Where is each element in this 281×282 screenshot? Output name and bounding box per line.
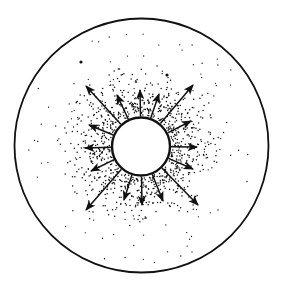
stipple-dot	[102, 127, 104, 129]
stipple-dot	[184, 154, 186, 156]
stipple-dot	[182, 177, 184, 179]
stipple-dot	[90, 94, 92, 96]
stipple-dot	[170, 136, 172, 138]
stipple-dot	[103, 182, 105, 184]
stipple-dot	[201, 77, 202, 78]
stipple-dot	[88, 200, 90, 202]
stipple-dot	[199, 98, 201, 100]
stipple-dot	[91, 128, 93, 130]
stipple-dot	[102, 93, 104, 95]
stipple-dot	[173, 136, 175, 138]
stipple-dot	[176, 191, 178, 193]
stipple-dot	[107, 148, 109, 150]
stipple-dot	[28, 149, 29, 150]
stipple-dot	[180, 159, 182, 161]
stipple-dot	[81, 114, 83, 116]
stipple-dot	[102, 128, 104, 130]
stipple-dot	[113, 234, 114, 235]
stipple-dot	[75, 102, 76, 103]
stipple-dot	[102, 94, 104, 96]
stipple-dot	[153, 181, 155, 183]
stipple-dot	[154, 115, 156, 117]
stipple-dot	[148, 102, 150, 104]
stipple-dot	[92, 108, 94, 110]
stipple-dot	[111, 129, 113, 131]
stipple-dot	[119, 116, 121, 118]
stipple-dot	[191, 44, 192, 45]
stipple-dot	[194, 172, 196, 174]
stipple-dot	[133, 108, 135, 110]
stipple-dot	[122, 74, 124, 76]
stipple-dot	[167, 77, 168, 78]
stipple-dot	[152, 96, 154, 98]
stipple-dot	[191, 236, 192, 237]
stipple-dot	[105, 170, 107, 172]
stipple-dot	[105, 183, 107, 185]
stipple-dot	[177, 205, 179, 207]
stipple-dot	[192, 107, 194, 109]
stipple-dot	[134, 180, 136, 182]
stipple-dot	[247, 154, 248, 155]
stipple-dot	[108, 74, 110, 76]
stipple-dot	[98, 125, 100, 127]
stipple-dot	[103, 124, 105, 126]
stipple-dot	[92, 188, 94, 190]
stipple-dot	[171, 106, 173, 108]
stipple-dot	[182, 138, 184, 140]
stipple-dot	[162, 180, 164, 182]
stipple-dot	[109, 85, 110, 86]
stipple-dot	[176, 132, 178, 134]
stipple-dot	[181, 157, 183, 159]
stipple-dot	[204, 142, 205, 143]
stipple-dot	[208, 169, 209, 170]
stipple-dot	[137, 219, 139, 221]
stipple-dot	[101, 116, 103, 118]
stipple-dot	[148, 110, 150, 112]
stipple-dot	[142, 218, 144, 220]
stipple-dot	[122, 92, 124, 94]
stipple-dot	[145, 195, 147, 197]
stipple-dot	[178, 167, 180, 169]
stipple-dot	[96, 179, 98, 181]
stipple-dot	[79, 103, 81, 105]
stipple-dot	[148, 115, 150, 117]
stipple-dot	[208, 131, 210, 133]
stipple-dot	[81, 147, 83, 149]
stipple-dot	[60, 144, 61, 145]
stipple-dot	[117, 176, 119, 178]
arrow-left-icon	[85, 147, 111, 148]
stipple-dot	[76, 124, 78, 126]
stipple-dot	[146, 185, 148, 187]
stipple-dot	[131, 210, 133, 212]
stipple-dot	[112, 121, 114, 123]
stipple-dot	[193, 209, 195, 211]
stipple-dot	[124, 219, 125, 220]
stipple-dot	[144, 88, 146, 90]
stipple-dot	[134, 92, 136, 94]
stipple-dot	[167, 129, 169, 131]
stipple-dot	[178, 210, 180, 212]
stipple-dot	[94, 178, 96, 180]
stipple-dot	[90, 120, 92, 122]
stipple-dot	[137, 180, 139, 182]
stipple-dot	[88, 79, 89, 80]
stipple-dot	[105, 198, 107, 200]
stipple-dot	[168, 95, 170, 97]
stipple-dot	[175, 130, 177, 132]
stipple-dot	[187, 113, 189, 115]
stipple-dot	[179, 170, 181, 172]
stipple-dot	[143, 109, 145, 111]
stipple-dot	[93, 219, 94, 220]
stipple-dot	[99, 151, 101, 153]
stipple-dot	[106, 188, 108, 190]
stipple-dot	[198, 111, 200, 113]
stipple-dot	[150, 179, 152, 181]
stipple-dot	[177, 142, 179, 144]
stipple-dot	[114, 95, 116, 97]
stipple-dot	[152, 116, 154, 118]
stipple-dot	[115, 126, 117, 128]
stipple-dot	[99, 191, 101, 193]
stipple-dot	[161, 98, 163, 100]
stipple-dot	[93, 140, 95, 142]
stipple-dot	[109, 118, 111, 120]
